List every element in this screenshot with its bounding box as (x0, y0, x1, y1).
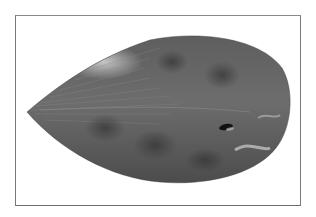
fish-body (27, 36, 290, 183)
flatfish-photo (0, 0, 316, 217)
